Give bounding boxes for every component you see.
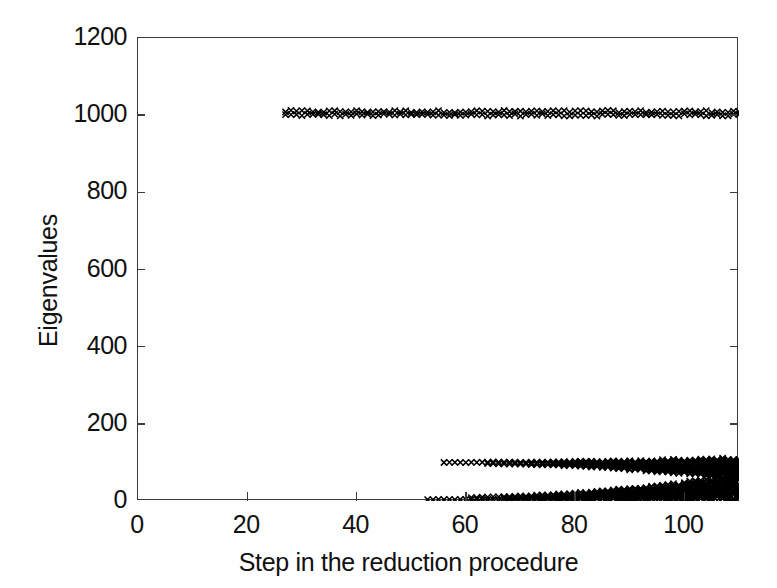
series-middle-eigenvalue-branch <box>441 455 739 480</box>
x-axis-tick-label: 60 <box>405 512 525 537</box>
plot-area <box>137 37 738 500</box>
x-axis-tick-label: 100 <box>623 512 743 537</box>
y-axis-tick-mark-right <box>730 269 737 270</box>
y-axis-tick-label: 1000 <box>73 101 127 126</box>
x-axis-tick-mark-top <box>356 492 357 499</box>
y-axis-tick-label: 600 <box>87 256 127 281</box>
x-axis-title-text: Step in the reduction procedure <box>239 548 579 576</box>
x-axis-tick-mark-top <box>465 492 466 499</box>
x-axis-tick-label: 40 <box>296 512 416 537</box>
y-axis-tick-label: 400 <box>87 333 127 358</box>
y-axis-tick-mark-right <box>730 192 737 193</box>
y-axis-tick-mark-right <box>730 114 737 115</box>
x-axis-tick-mark-top <box>247 492 248 499</box>
series-lower-eigenvalue-branch <box>424 473 739 501</box>
figure-canvas: Eigenvalues 020040060080010001200 020406… <box>0 0 777 588</box>
y-axis-tick-mark <box>138 346 145 347</box>
y-axis-tick-label: 1200 <box>73 24 127 49</box>
y-axis-tick-mark-right <box>730 346 737 347</box>
x-axis-tick-label: 80 <box>514 512 634 537</box>
y-axis-tick-label: 200 <box>87 410 127 435</box>
x-axis-tick-label: 0 <box>77 512 197 537</box>
x-axis-title: Step in the reduction procedure <box>0 548 777 577</box>
x-axis-tick-mark-top <box>684 492 685 499</box>
y-axis-tick-label: 800 <box>87 178 127 203</box>
scatter-markers <box>138 38 739 501</box>
y-axis-tick-mark-right <box>730 423 737 424</box>
y-axis-tick-label: 0 <box>114 487 127 512</box>
y-axis-title: Eigenvalues <box>34 214 63 347</box>
x-axis-tick-mark-top <box>574 492 575 499</box>
y-axis-tick-mark <box>138 423 145 424</box>
series-upper-eigenvalue-branch <box>282 107 739 119</box>
y-axis-tick-mark <box>138 269 145 270</box>
x-axis-tick-label: 20 <box>186 512 306 537</box>
y-axis-tick-mark <box>138 114 145 115</box>
y-axis-tick-mark <box>138 192 145 193</box>
